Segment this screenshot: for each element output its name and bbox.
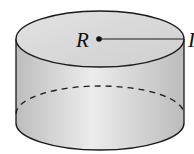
cylinder-diagram: R I xyxy=(0,0,194,154)
center-label: R xyxy=(75,28,89,52)
edge-label-partial: I xyxy=(187,28,194,52)
center-dot xyxy=(96,36,102,42)
